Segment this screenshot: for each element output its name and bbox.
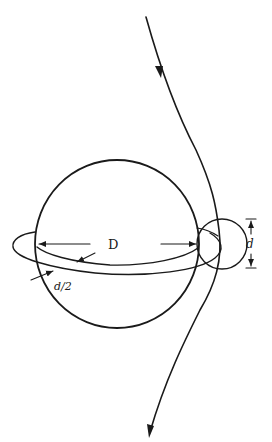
dimension-d-half-inner-arrow [77, 253, 95, 262]
small-cross-section-circle [197, 219, 247, 269]
label-d-half: d/2 [54, 280, 72, 293]
label-D: D [108, 237, 118, 252]
trajectory-arrow-bottom-icon [147, 424, 154, 438]
trajectory-arrow-top-icon [155, 66, 163, 78]
diagram-canvas: D d d/2 [0, 0, 272, 442]
trajectory-curve [146, 17, 220, 432]
label-d: d [246, 237, 254, 251]
